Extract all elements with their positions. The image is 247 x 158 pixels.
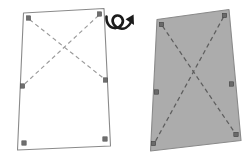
right-panel-marker-mid-right[interactable] xyxy=(229,82,233,86)
left-panel-marker-mid-left[interactable] xyxy=(20,84,24,88)
left-panel-diagonal-tl-to-midright xyxy=(30,20,105,80)
left-panel-marker-top-right[interactable] xyxy=(97,12,101,16)
left-panel-marker-bottom-right[interactable] xyxy=(103,137,107,141)
right-panel-marker-bottom-left[interactable] xyxy=(151,141,155,145)
diagram-svg xyxy=(0,0,247,158)
right-panel-group[interactable] xyxy=(151,10,242,152)
right-panel-marker-top-left[interactable] xyxy=(159,22,163,26)
right-panel-marker-bottom-right[interactable] xyxy=(234,132,238,136)
left-panel-diagonal-tr-to-midleft xyxy=(24,16,99,86)
diagram-canvas xyxy=(0,0,247,158)
left-panel-group[interactable] xyxy=(18,9,111,151)
left-panel-marker-mid-right[interactable] xyxy=(103,78,107,82)
right-panel-marker-mid-left[interactable] xyxy=(154,90,158,94)
right-panel-marker-top-right[interactable] xyxy=(222,13,226,17)
flip-over-arrow-icon xyxy=(106,15,134,29)
left-panel-marker-bottom-left[interactable] xyxy=(22,141,26,145)
flip-arrow-loop xyxy=(113,15,131,28)
right-panel-outline[interactable] xyxy=(151,10,242,152)
left-panel-marker-top-left[interactable] xyxy=(26,16,30,20)
left-panel-outline[interactable] xyxy=(18,9,111,151)
